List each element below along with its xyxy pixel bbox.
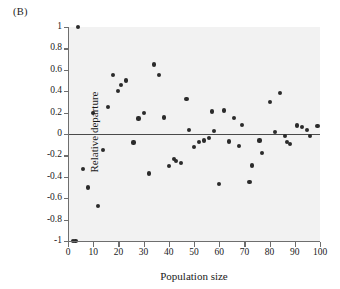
data-point: [315, 124, 319, 128]
data-point: [305, 128, 309, 132]
data-point: [300, 125, 304, 129]
data-point: [76, 25, 80, 29]
y-axis-tick: [64, 113, 69, 114]
data-point: [207, 136, 211, 140]
x-axis-tick-label: 10: [88, 248, 98, 258]
x-axis-tick-label: 60: [214, 248, 224, 258]
y-axis-tick: [64, 134, 69, 135]
data-point: [96, 204, 100, 208]
x-axis-tick-label: 20: [114, 248, 124, 258]
y-axis-tick: [64, 91, 69, 92]
y-axis-tick-label: -0.4: [47, 172, 62, 182]
y-axis-tick-label: -1: [54, 236, 62, 246]
data-point: [217, 182, 221, 186]
data-point: [174, 159, 178, 163]
data-point: [136, 116, 140, 120]
data-point: [247, 180, 251, 184]
y-axis-tick: [64, 48, 69, 49]
data-point: [157, 73, 161, 77]
data-point: [106, 105, 110, 109]
x-axis-tick-label: 90: [290, 248, 300, 258]
data-point: [111, 73, 115, 77]
data-point: [179, 161, 183, 165]
y-axis-tick-label: -0.6: [47, 193, 62, 203]
y-axis-tick-label: -0.2: [47, 151, 62, 161]
y-axis-tick-label: 0.2: [50, 108, 62, 118]
data-point: [278, 91, 282, 95]
data-point: [250, 163, 254, 167]
data-point: [260, 151, 264, 155]
data-point: [273, 130, 277, 134]
y-axis-tick-label: 0.6: [50, 65, 62, 75]
x-axis-tick: [68, 242, 69, 247]
data-point: [147, 171, 151, 175]
data-point: [288, 142, 292, 146]
data-point: [152, 62, 156, 66]
y-axis-tick-label: -0.8: [47, 215, 62, 225]
data-point: [131, 140, 135, 144]
data-point: [283, 134, 287, 138]
data-point: [222, 108, 226, 112]
x-axis-tick-label: 80: [265, 248, 275, 258]
y-axis-tick-label: 0.8: [50, 44, 62, 54]
data-point: [101, 148, 105, 152]
x-axis-title: Population size: [68, 270, 320, 282]
y-axis-tick-label: 1: [57, 22, 62, 32]
data-point: [116, 89, 120, 93]
x-axis-tick-label: 30: [139, 248, 149, 258]
x-axis-tick: [219, 242, 220, 247]
data-point: [202, 138, 206, 142]
x-axis-tick: [270, 242, 271, 247]
y-axis-line: [68, 27, 69, 241]
x-axis-tick: [320, 242, 321, 247]
y-axis-tick: [64, 220, 69, 221]
x-axis-tick-label: 40: [164, 248, 174, 258]
x-axis-tick: [295, 242, 296, 247]
y-axis-tick-label: 0: [57, 129, 62, 139]
y-axis-tick: [64, 198, 69, 199]
scatter-plot-area: [68, 27, 320, 241]
x-axis-tick: [118, 242, 119, 247]
data-point: [210, 109, 214, 113]
x-axis-tick: [169, 242, 170, 247]
panel-label: (B): [13, 6, 28, 17]
y-axis-tick: [64, 155, 69, 156]
data-point: [162, 115, 166, 119]
data-point: [308, 134, 312, 138]
figure-panel-b: (B) Relative departure 10.80.60.40.20-0.…: [0, 0, 340, 289]
y-axis-title: Relative departure: [88, 62, 100, 202]
data-point: [197, 140, 201, 144]
data-point: [167, 164, 171, 168]
data-point: [81, 167, 85, 171]
x-axis-tick: [144, 242, 145, 247]
x-axis-tick: [194, 242, 195, 247]
data-point: [192, 145, 196, 149]
data-point: [268, 100, 272, 104]
data-point: [184, 97, 188, 101]
data-point: [232, 116, 236, 120]
data-point: [237, 144, 241, 148]
x-axis-tick-label: 100: [313, 248, 327, 258]
y-axis-tick: [64, 177, 69, 178]
x-axis-tick-label: 0: [66, 248, 71, 258]
data-point: [142, 111, 146, 115]
y-axis-tick: [64, 70, 69, 71]
y-axis-tick-label: 0.4: [50, 86, 62, 96]
data-point: [187, 128, 191, 132]
data-point: [119, 83, 123, 87]
data-point: [240, 123, 244, 127]
x-axis-tick: [93, 242, 94, 247]
data-point: [212, 129, 216, 133]
x-axis-tick-label: 50: [189, 248, 199, 258]
data-point: [257, 138, 261, 142]
data-point: [227, 139, 231, 143]
x-axis-tick-label: 70: [240, 248, 250, 258]
data-point: [124, 78, 128, 82]
data-point: [295, 123, 299, 127]
x-axis-tick: [244, 242, 245, 247]
y-axis-tick: [64, 27, 69, 28]
